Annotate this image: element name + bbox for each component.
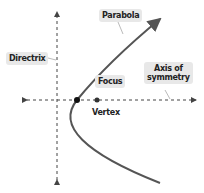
focus-point [95,98,100,103]
parabola-diagram [0,0,204,193]
axis-label-line2: symmetry [147,73,190,82]
parabola-curve [70,19,160,183]
axis-leader [165,90,170,99]
axis-label-line1: Axis of [147,64,190,73]
vertex-label: Vertex [89,106,123,119]
directrix-label: Directrix [6,52,48,65]
axis-of-symmetry-label: Axis of symmetry [144,62,193,84]
parabola-label: Parabola [99,9,142,22]
focus-label: Focus [95,75,125,88]
vertex-point [74,97,80,103]
parabola-leader [118,22,123,34]
directrix-leader [48,58,56,60]
